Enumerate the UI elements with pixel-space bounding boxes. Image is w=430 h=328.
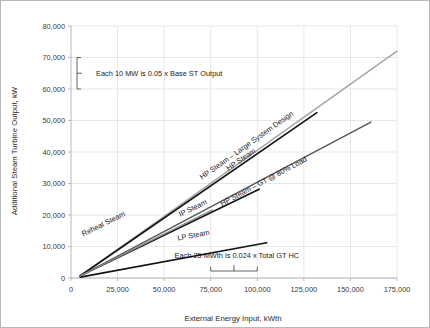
x-axis-title: External Energy Input, kWth xyxy=(184,314,281,323)
annotation-bracket-vertical xyxy=(77,58,82,90)
chart-canvas: 010,00020,00030,00040,00050,00060,00070,… xyxy=(1,1,430,328)
annotation-label: Each 10 MW is 0.05 x Base ST Output xyxy=(96,69,222,78)
y-axis-title: Additional Steam Turbine Output, kW xyxy=(10,86,19,215)
x-tick-label: 0 xyxy=(69,285,73,294)
series-label: LP Steam xyxy=(177,228,210,243)
y-tick-label: 30,000 xyxy=(42,179,65,188)
x-tick-label: 75,000 xyxy=(199,285,222,294)
x-tick-label: 50,000 xyxy=(153,285,176,294)
y-tick-label: 10,000 xyxy=(42,242,65,251)
y-tick-label: 70,000 xyxy=(42,53,65,62)
series-labels-group: HP Steam – Large System DesignHP SteamHP… xyxy=(80,109,308,243)
y-tick-label: 60,000 xyxy=(42,85,65,94)
x-tick-label: 25,000 xyxy=(106,285,129,294)
y-tick-label: 40,000 xyxy=(42,148,65,157)
chart-container: 010,00020,00030,00040,00050,00060,00070,… xyxy=(0,0,430,328)
x-tick-label: 175,000 xyxy=(384,285,411,294)
x-tick-label: 100,000 xyxy=(244,285,271,294)
y-tick-label: 80,000 xyxy=(42,22,65,31)
x-tick-label: 125,000 xyxy=(290,285,317,294)
series-label: Reheat Steam xyxy=(80,209,126,238)
y-tick-label: 20,000 xyxy=(42,211,65,220)
annotation-label: Each 25 MWth is 0.024 x Total GT HC xyxy=(174,251,299,260)
y-tick-label: 50,000 xyxy=(42,116,65,125)
annotation-bracket-horizontal xyxy=(211,265,258,271)
y-tick-label: 0 xyxy=(61,274,65,283)
x-tick-label: 150,000 xyxy=(337,285,364,294)
